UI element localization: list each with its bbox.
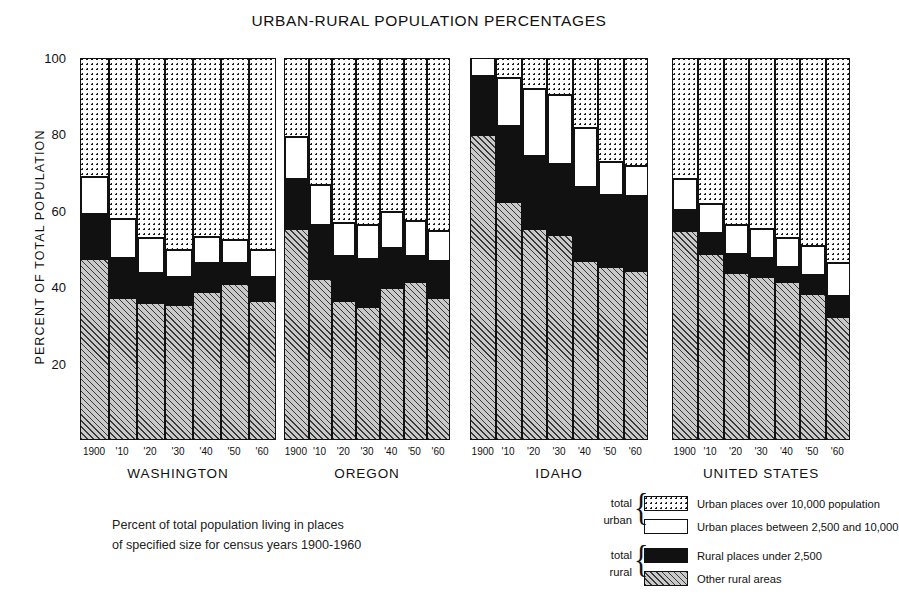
x-tick-label: 1900 xyxy=(285,446,307,457)
bar-40[interactable] xyxy=(573,59,598,439)
bar-segment xyxy=(110,298,136,439)
bar-segment xyxy=(166,250,192,277)
x-tick-label: 1900 xyxy=(674,446,696,457)
bar-segment xyxy=(497,126,520,202)
bar-segment xyxy=(381,248,403,288)
bar-segment xyxy=(285,137,308,179)
bar-20[interactable] xyxy=(332,59,356,439)
bar-30[interactable] xyxy=(356,59,380,439)
bar-segment xyxy=(138,273,164,304)
bar-60[interactable] xyxy=(826,59,850,439)
bar-60[interactable] xyxy=(624,59,648,439)
legend-swatch-white xyxy=(644,519,688,534)
x-tick-label: '40 xyxy=(780,446,793,457)
bar-segment xyxy=(357,58,379,225)
bar-30[interactable] xyxy=(165,59,193,439)
bar-segment xyxy=(673,58,697,179)
bar-segment xyxy=(310,58,332,185)
bar-30[interactable] xyxy=(749,59,774,439)
x-tick-label: '20 xyxy=(337,446,350,457)
x-tick-label: '50 xyxy=(227,446,240,457)
bar-50[interactable] xyxy=(221,59,249,439)
bar-50[interactable] xyxy=(800,59,825,439)
bar-segment xyxy=(497,202,520,439)
x-tick-label: '50 xyxy=(603,446,616,457)
bar-segment xyxy=(110,58,136,219)
x-tick-label: '20 xyxy=(143,446,156,457)
x-tick-label: '60 xyxy=(255,446,268,457)
legend-item: Rural places under 2,500 xyxy=(644,546,822,565)
bar-segment xyxy=(725,273,748,439)
bar-segment xyxy=(776,58,799,238)
x-tick-label: '40 xyxy=(384,446,397,457)
bar-10[interactable] xyxy=(496,59,521,439)
bar-segment xyxy=(333,301,355,439)
bar-segment xyxy=(381,212,403,248)
bar-segment xyxy=(599,195,622,268)
bar-60[interactable] xyxy=(427,59,450,439)
y-tick-label: 20 xyxy=(32,356,66,371)
x-tick-label: '60 xyxy=(432,446,445,457)
bar-segment xyxy=(625,58,648,166)
x-tick-label: 1900 xyxy=(472,446,494,457)
legend-label: Rural places under 2,500 xyxy=(697,550,822,562)
bar-segment xyxy=(750,258,773,277)
bar-segment xyxy=(625,166,648,197)
bar-10[interactable] xyxy=(698,59,723,439)
bar-segment xyxy=(471,58,495,76)
bar-segment xyxy=(801,294,824,439)
caption-line-2: of specified size for census years 1900-… xyxy=(112,535,452,555)
bar-segment xyxy=(222,240,248,263)
bar-segment xyxy=(776,267,799,282)
bar-segment xyxy=(574,128,597,187)
bar-60[interactable] xyxy=(249,59,276,439)
x-axis-ticks: 1900'10'20'30'40'50'60 xyxy=(284,446,450,460)
x-tick-label: '30 xyxy=(552,446,565,457)
x-tick-label: '50 xyxy=(408,446,421,457)
bar-segment xyxy=(166,277,192,306)
x-tick-label: '10 xyxy=(115,446,128,457)
bar-1900[interactable] xyxy=(285,59,309,439)
bar-segment xyxy=(138,58,164,238)
bar-20[interactable] xyxy=(724,59,749,439)
bar-segment xyxy=(750,277,773,439)
panel-title: WASHINGTON xyxy=(80,466,276,481)
bar-segment xyxy=(310,279,332,439)
bar-segment xyxy=(497,58,520,78)
bar-1900[interactable] xyxy=(673,59,698,439)
legend-swatch-black xyxy=(644,548,688,563)
legend-item: Urban places over 10,000 population xyxy=(644,494,880,513)
x-tick-label: '40 xyxy=(578,446,591,457)
bar-segment xyxy=(599,267,622,439)
bar-segment xyxy=(250,250,276,277)
bar-segment xyxy=(357,259,379,307)
bar-segment xyxy=(81,259,108,439)
bar-1900[interactable] xyxy=(471,59,496,439)
bar-segment xyxy=(250,277,276,302)
bar-40[interactable] xyxy=(380,59,404,439)
bar-40[interactable] xyxy=(193,59,221,439)
bar-segment xyxy=(357,307,379,439)
bar-40[interactable] xyxy=(775,59,800,439)
bar-20[interactable] xyxy=(522,59,547,439)
bar-segment xyxy=(776,238,799,267)
bar-30[interactable] xyxy=(547,59,572,439)
x-axis-ticks: 1900'10'20'30'40'50'60 xyxy=(672,446,850,460)
bar-segment xyxy=(699,233,722,254)
bar-50[interactable] xyxy=(404,59,428,439)
bar-10[interactable] xyxy=(309,59,333,439)
bar-segment xyxy=(673,210,697,231)
bar-segment xyxy=(222,263,248,284)
bar-segment xyxy=(625,196,648,270)
bar-segment xyxy=(725,225,748,254)
bar-segment xyxy=(310,185,332,225)
bar-50[interactable] xyxy=(598,59,623,439)
bar-20[interactable] xyxy=(137,59,165,439)
bar-10[interactable] xyxy=(109,59,137,439)
x-axis-ticks: 1900'10'20'30'40'50'60 xyxy=(80,446,276,460)
bar-segment xyxy=(699,204,722,233)
bar-segment xyxy=(471,135,495,439)
bar-1900[interactable] xyxy=(81,59,109,439)
bar-segment xyxy=(166,58,192,250)
